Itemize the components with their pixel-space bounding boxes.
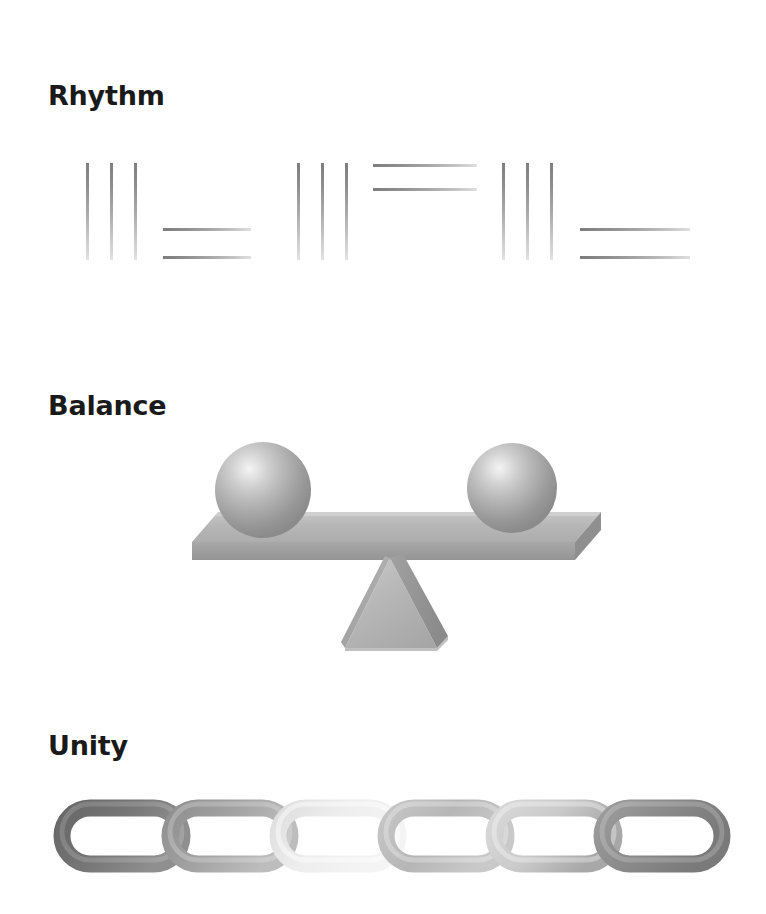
rhythm-horizontal-line xyxy=(580,256,690,259)
section-title-unity: Unity xyxy=(48,730,128,761)
rhythm-vertical-bar xyxy=(502,163,505,260)
rhythm-vertical-bar xyxy=(345,163,348,260)
unity-figure xyxy=(0,780,766,900)
rhythm-vertical-bar xyxy=(86,163,89,260)
rhythm-vertical-bar xyxy=(321,163,324,260)
rhythm-vertical-bar xyxy=(550,163,553,260)
rhythm-figure xyxy=(0,140,766,280)
balance-figure xyxy=(0,430,766,690)
rhythm-horizontal-line xyxy=(373,164,477,167)
chain-graphic xyxy=(0,780,766,900)
section-title-rhythm: Rhythm xyxy=(48,80,165,111)
rhythm-vertical-bar xyxy=(526,163,529,260)
sphere-left xyxy=(215,442,311,538)
section-title-balance: Balance xyxy=(48,390,166,421)
rhythm-horizontal-line xyxy=(580,228,690,231)
plank-front-face xyxy=(192,542,575,560)
rhythm-vertical-bar xyxy=(110,163,113,260)
design-principles-page: Rhythm Balance xyxy=(0,0,766,914)
rhythm-vertical-bar xyxy=(297,163,300,260)
rhythm-vertical-bar xyxy=(134,163,137,260)
rhythm-horizontal-line xyxy=(163,228,251,231)
sphere-right xyxy=(467,443,557,533)
balance-scale-graphic xyxy=(0,430,766,690)
rhythm-horizontal-line xyxy=(373,188,477,191)
rhythm-horizontal-line xyxy=(163,256,251,259)
